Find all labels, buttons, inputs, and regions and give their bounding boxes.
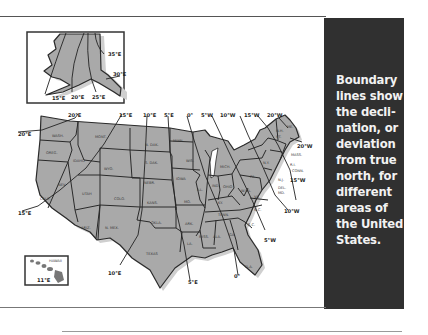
- label-35e: 35°E: [108, 51, 122, 57]
- state-oreg: OREG.: [46, 151, 58, 155]
- state-tenn: TENN.: [217, 213, 229, 217]
- state-calif: CALIF.: [40, 197, 51, 201]
- caption-line: different: [336, 184, 406, 200]
- state-ark: ARK.: [185, 222, 193, 226]
- label-bottom-5e: 5°E: [188, 279, 198, 285]
- label-bottom-0: 0°: [234, 273, 241, 279]
- state-nh: N.H.: [276, 129, 284, 133]
- state-la: LA.: [187, 242, 193, 246]
- declination-map: 35°E 30°E 15°E 20°E 25°E: [0, 0, 326, 306]
- state-ny: N.Y.: [263, 161, 270, 165]
- state-ndak: N. DAK.: [145, 143, 159, 147]
- state-nmex: N. MEX.: [105, 226, 119, 230]
- bottom-rule: [0, 307, 326, 308]
- label-top-15w: 15°W: [244, 112, 260, 118]
- state-sc: S.C.: [248, 223, 255, 227]
- state-pa: PA.: [250, 175, 255, 179]
- state-utah: UTAH: [82, 192, 92, 196]
- state-vt: VT.: [276, 135, 281, 139]
- state-idaho: IDAHO: [73, 159, 85, 163]
- state-colo: COLO.: [114, 197, 125, 201]
- state-me: ME.: [287, 125, 294, 129]
- label-hawaii-11e: 11°E: [37, 277, 51, 283]
- caption-line: Boundary: [336, 72, 406, 88]
- caption-panel: Boundary lines show the decli- nation, o…: [324, 18, 404, 309]
- caption-line: the decli-: [336, 104, 406, 120]
- state-ga: GA.: [229, 233, 235, 237]
- state-miss: MISS.: [199, 235, 209, 239]
- caption-line: areas of: [336, 200, 406, 216]
- state-mich: MICH.: [220, 165, 230, 169]
- alaska-inset: 35°E 30°E 15°E 20°E 25°E: [27, 32, 127, 103]
- hawaii-label: HAWAII: [49, 259, 62, 263]
- state-ill: ILL.: [197, 188, 203, 192]
- label-20e: 20°E: [71, 94, 85, 100]
- state-mo: MO.: [184, 200, 191, 204]
- label-15e: 15°E: [52, 95, 66, 101]
- label-east-10w: 10°W: [284, 208, 300, 214]
- state-md: MD.: [278, 191, 285, 195]
- label-30e: 30°E: [113, 71, 127, 77]
- state-del: DEL.: [278, 186, 286, 190]
- label-top-10e: 10°E: [143, 112, 157, 118]
- label-top-20e: 20°E: [68, 112, 82, 118]
- state-ind: IND.: [212, 184, 220, 188]
- state-ala: ALA.: [213, 235, 221, 239]
- label-top-10w: 10°W: [220, 112, 236, 118]
- caption-line: deviation: [336, 136, 406, 152]
- footer-rule: [62, 331, 402, 332]
- state-wis: WIS.: [186, 159, 194, 163]
- label-east-20w: 20°W: [297, 143, 313, 149]
- state-iowa: IOWA: [176, 177, 186, 181]
- label-top-0: 0°: [187, 112, 194, 118]
- caption-line: States.: [336, 232, 406, 248]
- state-mont: MONT.: [95, 135, 107, 139]
- state-nj: N.J.: [278, 178, 284, 182]
- state-kans: KANS.: [147, 201, 158, 205]
- state-texas: TEXAS: [145, 252, 158, 256]
- state-va: VA.: [254, 195, 260, 199]
- label-top-5e: 5°E: [164, 112, 174, 118]
- label-west-20e: 20°E: [18, 131, 32, 137]
- caption-line: north, for: [336, 168, 406, 184]
- state-wyo: WYO.: [104, 167, 113, 171]
- state-ky: KY.: [218, 201, 223, 205]
- state-nebr: NEBR.: [144, 181, 155, 185]
- label-25e: 25°E: [92, 94, 106, 100]
- state-nev: NEV.: [58, 183, 66, 187]
- label-top-5w: 5°W: [201, 112, 213, 118]
- caption-text: Boundary lines show the decli- nation, o…: [336, 72, 406, 248]
- state-sdak: S. DAK.: [145, 161, 158, 165]
- label-west-15e: 15°E: [18, 210, 32, 216]
- label-bottom-10e: 10°E: [108, 270, 122, 276]
- label-east-15w: 15°W: [290, 177, 306, 183]
- state-wva: W.VA.: [241, 189, 251, 193]
- state-okla: OKLA.: [151, 221, 162, 225]
- caption-line: from true: [336, 152, 406, 168]
- state-conn: CONN.: [292, 169, 304, 173]
- label-east-5w: 5°W: [264, 237, 276, 243]
- state-ri: R.I.: [290, 163, 296, 167]
- state-wash: WASH.: [52, 134, 64, 138]
- caption-line: the United: [336, 216, 406, 232]
- label-top-20w: 20°W: [267, 112, 283, 118]
- state-fla: FLA.: [245, 265, 253, 269]
- caption-line: nation, or: [336, 120, 406, 136]
- state-ohio: OHIO: [223, 185, 233, 189]
- state-ariz: ARIZ.: [81, 226, 91, 230]
- label-top-15e: 15°E: [119, 112, 133, 118]
- state-mass: MASS.: [291, 153, 302, 157]
- state-nc: N.C.: [254, 208, 261, 212]
- state-minn: MINN.: [173, 139, 184, 143]
- caption-line: lines show: [336, 88, 406, 104]
- hawaii-inset: HAWAII 11°E: [25, 256, 68, 285]
